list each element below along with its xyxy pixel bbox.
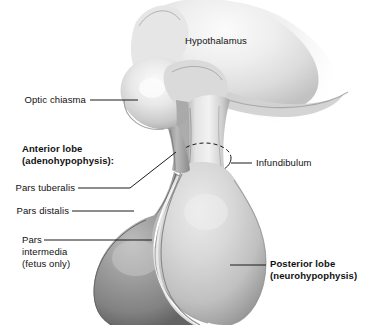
label-hypothalamus: Hypothalamus: [185, 35, 247, 47]
label-posterior-lobe-line1: Posterior lobe: [270, 258, 335, 270]
label-infundibulum: Infundibulum: [256, 157, 312, 169]
label-pars-intermedia-line1: Pars: [22, 234, 42, 246]
label-anterior-lobe-line2: (adenohypophysis):: [22, 155, 114, 167]
label-pars-intermedia-line3: (fetus only): [22, 258, 70, 270]
label-pars-distalis: Pars distalis: [0, 205, 69, 217]
label-optic-chiasma: Optic chiasma: [0, 94, 86, 106]
label-pars-tuberalis: Pars tuberalis: [0, 182, 75, 194]
label-anterior-lobe-line1: Anterior lobe: [22, 143, 82, 155]
label-posterior-lobe-line2: (neurohypophysis): [270, 270, 357, 282]
label-pars-intermedia-line2: intermedia: [22, 246, 67, 258]
leader-pars-tuberalis-elbow: [130, 152, 176, 188]
pituitary-diagram-figure: Hypothalamus Optic chiasma Anterior lobe…: [0, 0, 374, 325]
